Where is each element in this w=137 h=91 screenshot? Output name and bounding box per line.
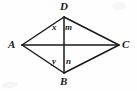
figure-canvas (0, 0, 137, 91)
vertex-label-D: D (60, 1, 68, 12)
edge-C-B (64, 45, 119, 73)
angle-label-n: n (66, 57, 71, 66)
angle-label-m: m (65, 23, 72, 32)
vertex-label-C: C (122, 39, 129, 50)
edge-B-A (22, 45, 64, 73)
geometry-figure: D A C B x m y n (0, 0, 137, 91)
vertex-label-B: B (60, 76, 67, 87)
angle-label-y: y (52, 57, 56, 66)
edge-A-D (22, 17, 64, 45)
edge-D-C (64, 17, 119, 45)
vertex-label-A: A (8, 39, 15, 50)
angle-label-x: x (52, 23, 57, 32)
